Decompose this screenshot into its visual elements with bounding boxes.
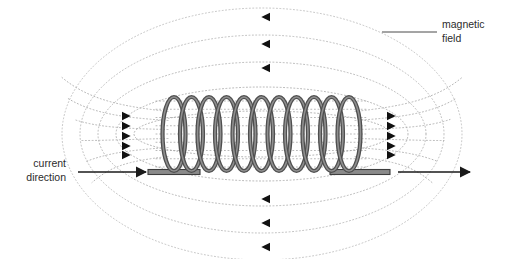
magnetic-field-label-line1: magnetic bbox=[442, 18, 485, 30]
solenoid-field-diagram: magnetic field current direction bbox=[0, 0, 515, 259]
field-line-fan-left bbox=[74, 120, 168, 130]
field-line-fan-right bbox=[355, 78, 462, 112]
field-arrowhead-left bbox=[261, 195, 270, 204]
field-arrowhead-left bbox=[261, 243, 270, 252]
field-arrowhead-right bbox=[122, 122, 131, 131]
current-direction-label-line1: current bbox=[33, 157, 66, 169]
field-arrowhead-left bbox=[261, 13, 270, 22]
field-arrowhead-left bbox=[261, 40, 270, 49]
field-arrowhead-right bbox=[387, 142, 396, 151]
field-arrowhead-right bbox=[122, 142, 131, 151]
field-arrowhead-right bbox=[387, 132, 396, 141]
lead-wire-right bbox=[330, 170, 390, 175]
field-line-fan-right bbox=[355, 139, 444, 141]
magnetic-field-label: magnetic field bbox=[442, 18, 485, 44]
current-direction-label: current direction bbox=[26, 157, 66, 183]
field-arrowhead-right bbox=[387, 122, 396, 131]
magnetic-field-label-line2: field bbox=[442, 32, 461, 44]
field-arrowhead-right bbox=[387, 151, 396, 160]
field-arrowhead-right bbox=[387, 112, 396, 121]
field-line-fan-left bbox=[68, 99, 168, 121]
field-line-fan-right bbox=[355, 148, 438, 162]
field-arrowhead-left bbox=[261, 64, 270, 73]
diagram-canvas: magnetic field current direction bbox=[0, 0, 515, 259]
field-arrowhead-right bbox=[122, 132, 131, 141]
current-direction-label-line2: direction bbox=[26, 171, 66, 183]
field-line-loop bbox=[98, 62, 426, 206]
field-line-fan-left bbox=[62, 78, 168, 112]
field-arrowhead-right bbox=[122, 112, 131, 121]
field-arrowhead-left bbox=[261, 219, 270, 228]
